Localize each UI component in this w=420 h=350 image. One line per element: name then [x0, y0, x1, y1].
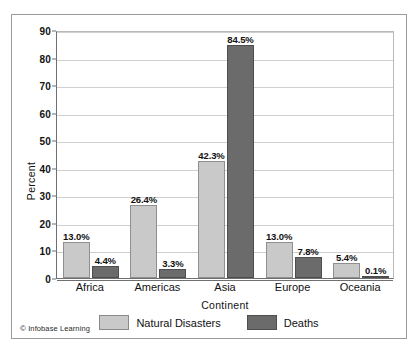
bar-value-label: 26.4%	[131, 194, 157, 205]
bar[interactable]: 7.8%	[295, 257, 322, 278]
x-axis-title: Continent	[56, 299, 394, 311]
x-axis-tick-label: Asia	[214, 281, 235, 293]
bar[interactable]: 3.3%	[159, 269, 186, 278]
y-axis-tick-label: 80	[39, 53, 51, 64]
bar-group: 13.0%7.8%	[266, 32, 322, 278]
bar[interactable]: 26.4%	[130, 205, 157, 278]
bar-value-label: 13.0%	[63, 231, 89, 242]
legend-item[interactable]: Natural Disasters	[99, 315, 220, 330]
legend-swatch	[247, 315, 277, 330]
bar-value-label: 3.3%	[162, 258, 183, 269]
y-axis-tick-label: 10	[39, 246, 51, 257]
bar[interactable]: 0.1%	[362, 276, 389, 278]
y-axis-tick-label: 20	[39, 218, 51, 229]
bar[interactable]: 4.4%	[92, 266, 119, 278]
legend-label: Natural Disasters	[136, 317, 220, 329]
bar[interactable]: 5.4%	[333, 263, 360, 278]
y-axis-tick-label: 90	[39, 26, 51, 37]
x-axis-tick-label: Americas	[134, 281, 180, 293]
y-axis-tick-label: 70	[39, 81, 51, 92]
bar-value-label: 42.3%	[198, 150, 224, 161]
bar-value-label: 4.4%	[95, 255, 116, 266]
y-axis-tick-label: 40	[39, 163, 51, 174]
y-axis-tick-label: 0	[45, 274, 51, 285]
bar-value-label: 5.4%	[336, 252, 357, 263]
bar[interactable]: 42.3%	[198, 161, 225, 278]
x-axis-tick-labels: AfricaAmericasAsiaEuropeOceania	[56, 281, 394, 297]
bar-group: 13.0%4.4%	[63, 32, 119, 278]
legend-item[interactable]: Deaths	[247, 315, 319, 330]
x-axis-tick-label: Oceania	[340, 281, 381, 293]
bar-group: 26.4%3.3%	[130, 32, 186, 278]
chart-figure: Percent 0102030405060708090 13.0%4.4%26.…	[11, 14, 407, 339]
bar-groups: 13.0%4.4%26.4%3.3%42.3%84.5%13.0%7.8%5.4…	[57, 32, 393, 278]
x-axis-tick-label: Europe	[275, 281, 310, 293]
bar-group: 42.3%84.5%	[198, 32, 254, 278]
bar-value-label: 7.8%	[297, 246, 318, 257]
y-axis-tick-labels: 0102030405060708090	[12, 31, 56, 279]
bar[interactable]: 84.5%	[227, 45, 254, 278]
bar[interactable]: 13.0%	[266, 242, 293, 278]
credit-text: Infobase Learning	[28, 324, 90, 333]
bar-group: 5.4%0.1%	[333, 32, 389, 278]
copyright-icon: ©	[20, 324, 26, 333]
legend-swatch	[99, 315, 129, 330]
y-axis-tick-label: 50	[39, 136, 51, 147]
bar[interactable]: 13.0%	[63, 242, 90, 278]
bar-value-label: 84.5%	[227, 34, 253, 45]
plot-area: 13.0%4.4%26.4%3.3%42.3%84.5%13.0%7.8%5.4…	[56, 31, 394, 279]
bar-value-label: 0.1%	[365, 265, 386, 276]
y-axis-tick-label: 30	[39, 191, 51, 202]
copyright-credit: © Infobase Learning	[20, 324, 90, 333]
x-axis-tick-label: Africa	[76, 281, 104, 293]
y-axis-tick-label: 60	[39, 108, 51, 119]
bar-value-label: 13.0%	[266, 231, 292, 242]
legend-label: Deaths	[284, 317, 319, 329]
